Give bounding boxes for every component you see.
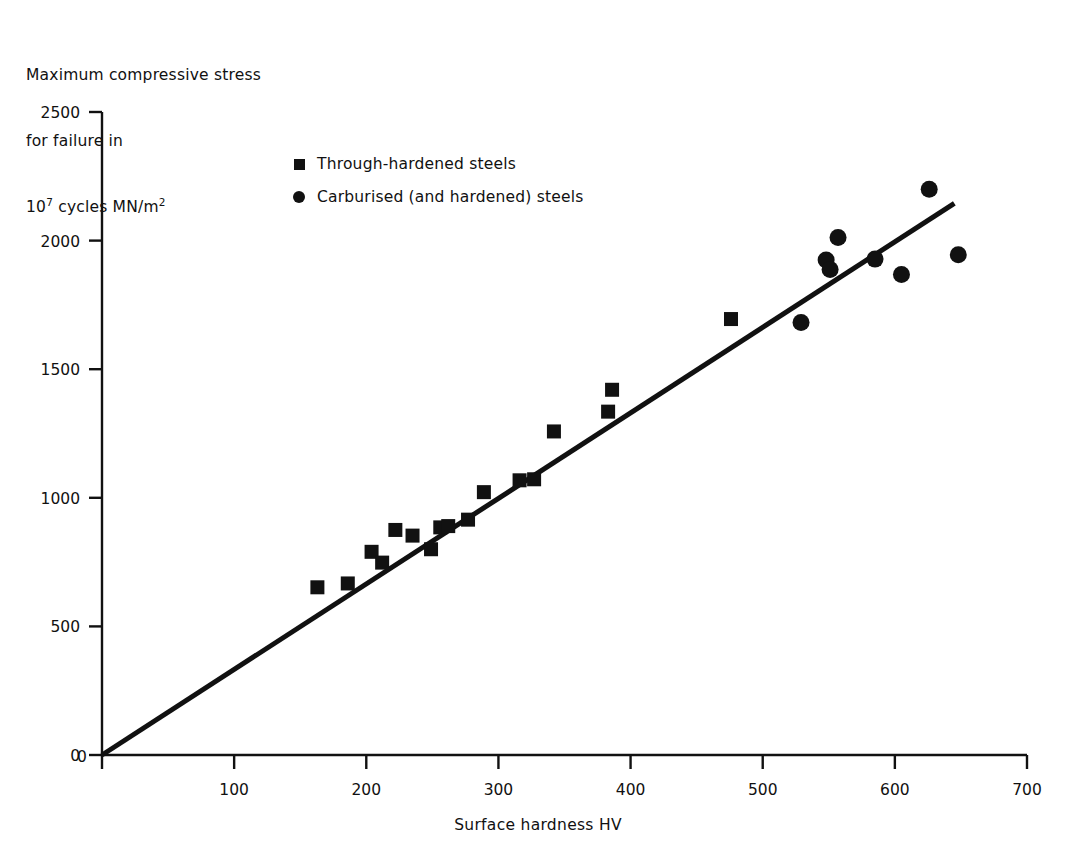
data-point-circle [830,229,847,246]
y-axis-tick-label: 1500 [41,361,80,379]
data-point-square [601,405,615,419]
data-point-square [341,576,355,590]
x-axis-tick-label: 200 [351,781,381,799]
data-point-square [527,472,541,486]
legend-item-carburised: Carburised (and hardened) steels [293,188,584,206]
data-point-square [461,513,475,527]
square-marker-icon [294,159,305,170]
x-axis-tick-label: 0 [77,748,87,766]
data-point-circle [822,261,839,278]
x-axis-tick-label: 700 [1012,781,1042,799]
series-through-hardened [310,312,738,594]
plot-area: 0500100015002000250001002003004005006007… [0,0,1076,857]
series-carburised [793,181,967,331]
legend-label-carburised: Carburised (and hardened) steels [317,188,584,206]
legend-label-through-hardened: Through-hardened steels [317,155,516,173]
x-axis-tick-label: 600 [880,781,910,799]
data-point-square [310,580,324,594]
y-axis-tick-label: 2000 [41,233,80,251]
data-point-circle [950,246,967,263]
x-axis-title: Surface hardness HV [0,816,1076,834]
data-point-circle [867,251,884,268]
legend-item-through-hardened: Through-hardened steels [294,155,516,173]
x-axis-tick-label: 400 [616,781,646,799]
x-axis-tick-label: 500 [748,781,778,799]
data-point-square [424,542,438,556]
data-point-square [513,473,527,487]
x-axis-tick-label: 100 [219,781,249,799]
y-axis-tick-label: 1000 [41,490,80,508]
data-point-circle [921,181,938,198]
data-point-square [406,529,420,543]
y-axis-tick-label: 500 [50,618,80,636]
data-point-square [388,523,402,537]
figure-container: Maximum compressive stress for failure i… [0,0,1076,857]
data-point-circle [793,314,810,331]
data-point-square [605,383,619,397]
circle-marker-icon [293,191,305,203]
y-axis-tick-label: 2500 [41,104,80,122]
data-point-square [441,519,455,533]
data-point-square [724,312,738,326]
data-point-circle [893,266,910,283]
data-point-square [477,485,491,499]
data-point-square [375,556,389,570]
data-point-square [547,424,561,438]
x-axis-tick-label: 300 [484,781,514,799]
